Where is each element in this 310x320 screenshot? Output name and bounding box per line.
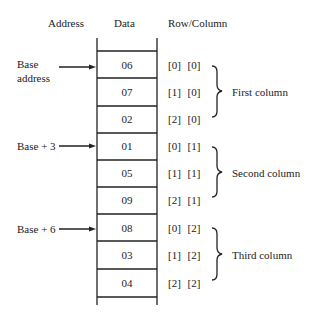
base-address-line1: Base [17,57,50,71]
base-plus-6-label: Base + 6 [17,222,56,236]
row-column-index: [2] [0] [168,113,200,125]
third-column-label: Third column [232,249,292,261]
base-address-line2: address [17,71,50,85]
base-address-label: Base address [17,57,50,85]
memory-diagram-lines [0,0,310,320]
row-column-index: [0] [0] [168,59,200,71]
row-column-index: [2] [2] [168,277,200,289]
row-column-index: [1] [1] [168,167,200,179]
memory-cell: 07 [98,86,156,98]
memory-cell: 09 [98,194,156,206]
memory-cell: 08 [98,222,156,234]
memory-cell: 03 [98,249,156,261]
row-column-index: [0] [2] [168,222,200,234]
row-column-index: [2] [1] [168,194,200,206]
memory-cell: 02 [98,113,156,125]
base-plus-3-label: Base + 3 [17,139,56,153]
memory-cell: 06 [98,59,156,71]
second-column-label: Second column [232,167,300,179]
row-column-index: [1] [2] [168,249,200,261]
memory-cell: 05 [98,167,156,179]
memory-cell: 01 [98,140,156,152]
row-column-index: [1] [0] [168,86,200,98]
row-column-index: [0] [1] [168,140,200,152]
memory-cell: 04 [98,277,156,289]
first-column-label: First column [232,86,288,98]
